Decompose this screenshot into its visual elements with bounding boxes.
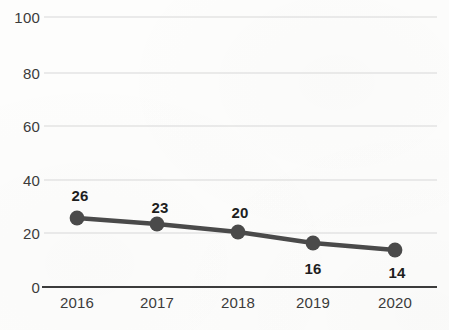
y-tick-label-100: 100 bbox=[0, 9, 40, 26]
line-chart: 100 80 60 40 20 0 2016 2017 2018 2019 20… bbox=[0, 0, 449, 330]
y-tick-label-40: 40 bbox=[0, 172, 40, 189]
data-point-2017[interactable] bbox=[150, 217, 165, 232]
y-tick-label-80: 80 bbox=[0, 65, 40, 82]
data-label-2018: 20 bbox=[215, 204, 265, 221]
data-label-2020: 14 bbox=[372, 264, 422, 281]
x-tick-label-2018: 2018 bbox=[203, 294, 273, 311]
data-point-2018[interactable] bbox=[231, 225, 246, 240]
x-tick-label-2017: 2017 bbox=[122, 294, 192, 311]
x-tick-label-2016: 2016 bbox=[42, 294, 112, 311]
y-tick-label-60: 60 bbox=[0, 118, 40, 135]
y-tick-label-20: 20 bbox=[0, 225, 40, 242]
data-label-2017: 23 bbox=[135, 199, 185, 216]
data-label-2019: 16 bbox=[288, 260, 338, 277]
data-point-2016[interactable] bbox=[70, 211, 85, 226]
data-point-2020[interactable] bbox=[388, 243, 403, 258]
data-label-2016: 26 bbox=[55, 187, 105, 204]
y-tick-label-0: 0 bbox=[0, 279, 40, 296]
x-tick-label-2020: 2020 bbox=[360, 294, 430, 311]
plot-area bbox=[0, 0, 449, 330]
data-point-2019[interactable] bbox=[306, 236, 321, 251]
x-tick-label-2019: 2019 bbox=[278, 294, 348, 311]
